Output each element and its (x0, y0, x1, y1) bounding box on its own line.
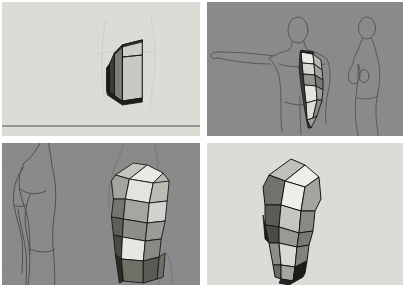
viewport-top-left[interactable]: Light paper background with a simple ext… (2, 2, 200, 136)
face-mid-right-light (147, 201, 167, 223)
face-ribs-right (299, 211, 315, 233)
panel-background (2, 2, 200, 136)
torso-volume-model[interactable] (111, 163, 169, 283)
face-silhouette-black (106, 64, 109, 94)
face-ribs-left (303, 74, 316, 86)
face-bottom-center (121, 259, 143, 283)
viewport-bottom-left[interactable]: Gray viewport with a side-view figure sk… (2, 143, 200, 285)
face-chest-mid-light (302, 63, 315, 75)
viewport-top-right[interactable]: Gray viewport with a front-view figure w… (207, 2, 403, 136)
face-waist-left (111, 217, 123, 237)
face-ribs-left-dark (265, 205, 281, 227)
face-hip-center-light (121, 237, 145, 261)
viewport-grid: Light paper background with a simple ext… (0, 0, 403, 285)
viewport-bottom-right[interactable]: Light paper background with a three-quar… (207, 143, 403, 285)
face-bottom-right (143, 257, 159, 283)
face-pelvis-center-light (279, 243, 297, 267)
